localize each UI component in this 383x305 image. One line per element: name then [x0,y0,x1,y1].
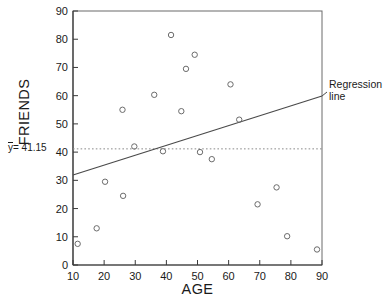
data-point [237,117,242,122]
mean-line-label: y= 41.15 [8,143,47,153]
regression-line-annotation: Regression line [329,78,382,102]
data-point [284,234,289,239]
data-point-group [75,32,320,252]
scatter-plot-figure: 0102030405060708090 102030405060708090 F… [0,0,383,305]
data-point [120,107,125,112]
regression-annotation-leader [322,92,327,96]
data-point [197,149,202,154]
data-point [183,66,188,71]
regression-annotation-line1: Regression [329,78,382,90]
y-tick-label: 60 [40,90,68,101]
y-tick-label: 10 [40,231,68,242]
y-tick-label: 70 [40,62,68,73]
data-point [94,226,99,231]
data-point [120,193,125,198]
data-point [75,241,80,246]
data-point [255,202,260,207]
data-point [179,108,184,113]
y-tick-label: 90 [40,6,68,17]
y-tick-label: 20 [40,203,68,214]
y-bar-symbol: y [8,143,13,153]
x-axis-title: AGE [73,281,322,297]
data-point [228,82,233,87]
regression-line [73,96,322,175]
data-point [209,156,214,161]
data-point [274,185,279,190]
data-point [132,144,137,149]
data-point [160,149,165,154]
data-point [168,32,173,37]
y-tick-label: 80 [40,34,68,45]
regression-annotation-line2: line [329,90,382,102]
data-point [314,247,319,252]
y-tick-label: 50 [40,118,68,129]
data-point [102,179,107,184]
x-axis-ticks [73,260,322,265]
y-tick-label: 30 [40,175,68,186]
plot-frame [73,11,322,265]
data-point [152,92,157,97]
mean-line-value: = 41.15 [13,142,47,153]
y-axis-ticks [73,11,78,265]
y-tick-label: 0 [40,260,68,271]
data-point [192,52,197,57]
